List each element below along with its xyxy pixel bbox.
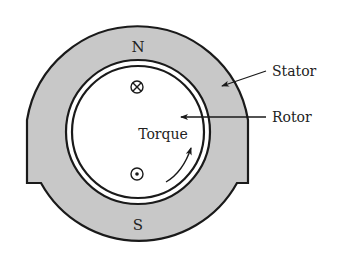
motor-diagram: N S Torque Stator Rotor [0, 0, 341, 258]
rotor-label: Rotor [272, 109, 312, 125]
north-pole-label: N [131, 38, 144, 56]
torque-label: Torque [138, 126, 188, 142]
stator-label: Stator [272, 63, 317, 79]
south-pole-label: S [133, 216, 143, 234]
